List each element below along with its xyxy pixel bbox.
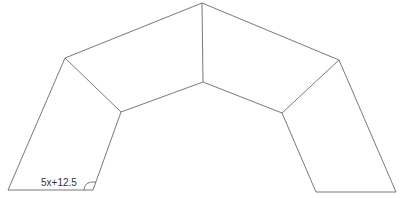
inner-edge-left [121, 82, 203, 112]
outer-edge-top-right [202, 3, 339, 60]
inner-edge-right [203, 82, 282, 113]
left-leg-inner [93, 112, 121, 190]
right-divider [282, 60, 339, 113]
left-divider [65, 58, 121, 112]
right-leg-inner [282, 113, 316, 192]
left-leg-outer [8, 58, 65, 190]
arch-diagram: 5x+12.5 [0, 0, 400, 198]
center-divider [202, 3, 203, 82]
right-leg-outer [339, 60, 396, 192]
outer-edge-top-left [65, 3, 202, 58]
angle-label: 5x+12.5 [41, 177, 77, 188]
